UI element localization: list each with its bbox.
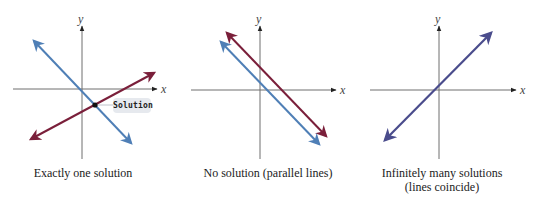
red-line [227,33,326,136]
y-axis-label: y [77,12,84,26]
panel-infinitely-many: x y [370,12,526,159]
caption-line-1: Infinitely many solutions [380,166,504,180]
x-axis-label: x [160,82,167,96]
solution-point [92,102,97,107]
x-axis-label: x [519,83,526,97]
caption-line-2: (lines coincide) [380,180,504,194]
y-axis-label: y [255,12,262,26]
coincident-line [385,33,491,140]
caption-infinitely-many: Infinitely many solutions (lines coincid… [380,166,504,194]
panel-no-solution: x y [191,12,346,159]
caption-no-solution: No solution (parallel lines) [198,166,338,180]
caption-one-solution: Exactly one solution [30,166,136,180]
panel-one-solution: x y [13,12,167,159]
solution-label: Solution [113,98,151,113]
y-axis-label: y [434,12,441,26]
blue-line [221,42,319,144]
x-axis-label: x [339,83,346,97]
